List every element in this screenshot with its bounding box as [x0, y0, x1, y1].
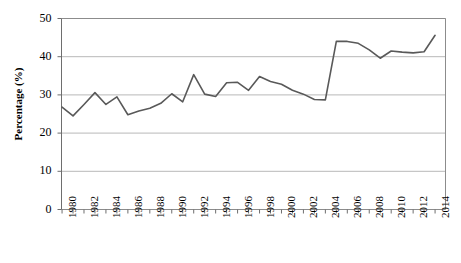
y-tick-label: 10: [18, 163, 52, 178]
x-tick-label: 2002: [307, 196, 319, 218]
x-tick-label: 1982: [88, 196, 100, 218]
data-series-line: [62, 35, 435, 116]
x-tick-label: 1988: [154, 196, 166, 218]
x-tick-label: 2012: [417, 196, 429, 218]
chart-plot-area: [0, 0, 461, 263]
y-tick-label: 30: [18, 87, 52, 102]
x-tick-label: 1984: [110, 196, 122, 218]
y-tick-label: 50: [18, 11, 52, 26]
x-tick-label: 1992: [198, 196, 210, 218]
x-tick-label: 2004: [329, 196, 341, 218]
x-tick-label: 1986: [132, 196, 144, 218]
x-tick-label: 1998: [264, 196, 276, 218]
x-tick-label: 1980: [66, 196, 78, 218]
y-tick-label: 0: [18, 202, 52, 217]
y-tick-label: 40: [18, 49, 52, 64]
x-tick-label: 2006: [351, 196, 363, 218]
x-tick-label: 2010: [395, 196, 407, 218]
x-tick-label: 2000: [285, 196, 297, 218]
x-tick-label: 1996: [242, 196, 254, 218]
x-tick-label: 2008: [373, 196, 385, 218]
x-tick-label: 1990: [176, 196, 188, 218]
x-tick-label: 1994: [220, 196, 232, 218]
line-chart: Percentage (%) 0102030405019801982198419…: [0, 0, 461, 263]
y-tick-label: 20: [18, 125, 52, 140]
x-tick-label: 2014: [439, 196, 451, 218]
